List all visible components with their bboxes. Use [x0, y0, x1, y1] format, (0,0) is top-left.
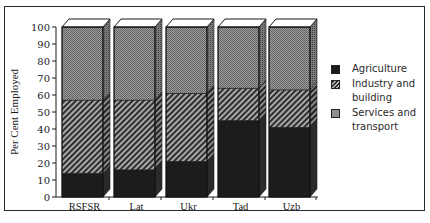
y-tick-label: 10: [37, 175, 50, 186]
segment-agriculture: [166, 161, 207, 197]
legend-item-agriculture: Agriculture: [331, 62, 426, 76]
bar-uzb: [269, 19, 317, 197]
segment-agriculture: [218, 121, 259, 198]
segment-industry: [114, 100, 155, 170]
y-tick-label: 30: [37, 141, 50, 152]
legend-item-services: Services and transport: [331, 106, 426, 134]
segment-industry: [269, 90, 310, 127]
legend-item-industry: Industry and building: [331, 77, 426, 105]
segment-industry: [218, 88, 259, 120]
segment-industry: [166, 93, 207, 161]
x-tick-label: Ukr: [180, 201, 197, 212]
agriculture-swatch-icon: [331, 65, 340, 74]
industry-swatch-icon: [331, 80, 340, 89]
legend-label: Industry and building: [352, 77, 426, 105]
y-axis-label: Per Cent Employed: [8, 68, 20, 155]
legend-label: Agriculture: [352, 62, 407, 76]
y-tick-label: 40: [37, 124, 50, 135]
y-tick-label: 0: [44, 192, 50, 203]
segment-services: [166, 27, 207, 93]
bar-ukr: [166, 19, 214, 197]
segment-services: [218, 27, 259, 88]
segment-services: [62, 27, 103, 100]
segment-services: [269, 27, 310, 90]
x-tick-label: RSFSR: [69, 201, 101, 212]
x-tick-label: Tad: [233, 201, 249, 212]
segment-agriculture: [114, 170, 155, 197]
x-axis-labels: RSFSRLatUkrTadUzb: [69, 201, 301, 212]
x-tick-label: Lat: [130, 201, 144, 212]
segment-agriculture: [269, 127, 310, 197]
segment-agriculture: [62, 173, 103, 197]
y-tick-label: 70: [37, 73, 50, 84]
bar-lat: [114, 19, 162, 197]
bar-rsfsr: [62, 19, 110, 197]
y-tick-label: 50: [37, 107, 50, 118]
bar-tad: [218, 19, 266, 197]
y-tick-label: 20: [37, 158, 50, 169]
y-tick-label: 100: [31, 22, 50, 33]
bars-group: [62, 19, 317, 197]
y-tick-label: 60: [37, 90, 50, 101]
y-tick-label: 80: [37, 56, 50, 67]
legend-label: Services and transport: [352, 106, 426, 134]
services-swatch-icon: [331, 109, 340, 118]
segment-industry: [62, 100, 103, 173]
x-tick-label: Uzb: [283, 201, 301, 212]
y-tick-label: 90: [37, 39, 50, 50]
segment-services: [114, 27, 155, 100]
legend: Agriculture Industry and building Servic…: [331, 62, 426, 135]
